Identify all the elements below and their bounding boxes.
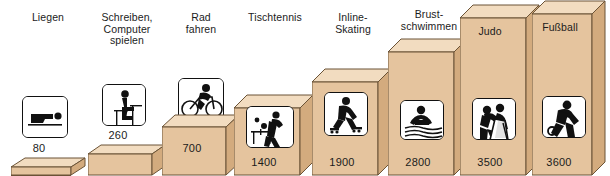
bar-value-brustschwimmen: 2800 <box>378 156 458 168</box>
bar-value-judo: 3500 <box>450 156 530 168</box>
bar-label-judo: Judo <box>450 26 530 38</box>
bar-value-radfahren: 700 <box>154 142 230 154</box>
bar-column-inlineskating: Inline- Skating <box>310 0 396 176</box>
bar-label-tischtennis: Tischtennis <box>232 12 318 24</box>
bar-value-tischtennis: 1400 <box>224 156 304 168</box>
bar-column-radfahren: Rad fahren 700 <box>160 0 242 176</box>
table-tennis-icon <box>246 106 294 148</box>
bar-value-inlineskating: 1900 <box>302 156 382 168</box>
bar-column-tischtennis: Tischtennis <box>232 0 318 176</box>
bar-box-liegen <box>11 164 85 176</box>
bar-column-fussball: Fußball 3600 <box>530 0 610 176</box>
bar-value-schreiben: 260 <box>80 129 156 141</box>
bar-label-inlineskating: Inline- Skating <box>310 12 396 35</box>
bar-value-fussball: 3600 <box>520 156 598 168</box>
bar-label-liegen: Liegen <box>8 12 88 24</box>
sitting-at-desk-icon <box>102 84 146 126</box>
bar-label-schreiben: Schreiben, Computer spielen <box>86 12 168 47</box>
bar-outline-liegen <box>11 156 87 176</box>
bar-label-fussball: Fußball <box>520 22 600 34</box>
bar-value-liegen: 80 <box>2 142 76 154</box>
bar-label-radfahren: Rad fahren <box>160 12 242 35</box>
lying-person-icon <box>22 96 68 138</box>
inline-skater-icon <box>324 92 368 136</box>
soccer-player-icon <box>542 96 586 138</box>
judo-icon <box>472 98 516 140</box>
bar-column-liegen: Liegen 80 <box>8 0 88 176</box>
breaststroke-swimmer-icon <box>400 100 444 140</box>
